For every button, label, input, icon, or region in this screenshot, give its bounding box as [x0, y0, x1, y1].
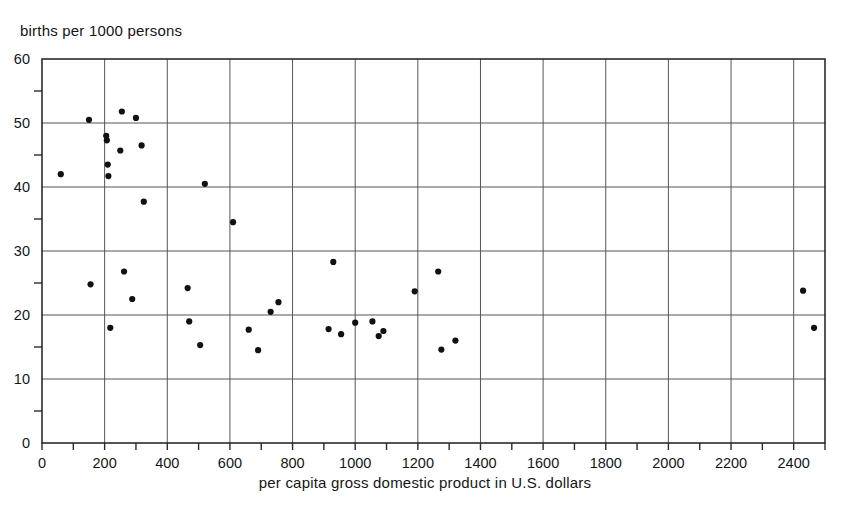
- data-point: [86, 117, 92, 123]
- tick-marks-group: [34, 91, 825, 450]
- data-point: [105, 173, 111, 179]
- data-point: [87, 281, 93, 287]
- x-tick-labels-group: 0200400600800100012001400160018002000220…: [38, 455, 810, 471]
- data-point: [197, 342, 203, 348]
- x-tick-label: 800: [280, 455, 304, 471]
- y-tick-label: 40: [14, 179, 30, 195]
- data-point: [117, 147, 123, 153]
- data-point: [230, 219, 236, 225]
- x-tick-label: 1600: [527, 455, 559, 471]
- x-tick-label: 2400: [778, 455, 810, 471]
- data-point: [121, 268, 127, 274]
- data-point: [246, 327, 252, 333]
- data-point: [452, 338, 458, 344]
- data-point: [202, 181, 208, 187]
- x-tick-label: 1800: [590, 455, 622, 471]
- data-point: [133, 115, 139, 121]
- data-point: [268, 309, 274, 315]
- gridlines-group: [42, 59, 825, 443]
- data-point: [376, 333, 382, 339]
- data-point: [800, 288, 806, 294]
- data-point: [129, 296, 135, 302]
- data-points-group: [58, 108, 817, 353]
- data-point: [58, 171, 64, 177]
- data-point: [380, 328, 386, 334]
- data-point: [141, 199, 147, 205]
- y-tick-label: 60: [14, 51, 30, 67]
- plot-canvas: 0200400600800100012001400160018002000220…: [0, 0, 850, 512]
- y-tick-label: 50: [14, 115, 30, 131]
- data-point: [104, 137, 110, 143]
- data-point: [119, 108, 125, 114]
- data-point: [255, 347, 261, 353]
- x-axis-label: per capita gross domestic product in U.S…: [0, 474, 850, 491]
- data-point: [811, 325, 817, 331]
- data-point: [138, 142, 144, 148]
- data-point: [412, 288, 418, 294]
- data-point: [438, 346, 444, 352]
- x-tick-label: 400: [155, 455, 179, 471]
- data-point: [185, 285, 191, 291]
- x-tick-label: 200: [93, 455, 117, 471]
- y-tick-label: 0: [22, 435, 30, 451]
- x-tick-label: 1200: [402, 455, 434, 471]
- data-point: [105, 162, 111, 168]
- data-point: [107, 325, 113, 331]
- x-tick-label: 2200: [715, 455, 747, 471]
- x-tick-label: 1000: [339, 455, 371, 471]
- data-point: [338, 331, 344, 337]
- data-point: [325, 326, 331, 332]
- data-point: [330, 259, 336, 265]
- x-tick-label: 600: [218, 455, 242, 471]
- data-point: [186, 318, 192, 324]
- y-tick-label: 30: [14, 243, 30, 259]
- data-point: [275, 299, 281, 305]
- data-point: [435, 268, 441, 274]
- x-tick-label: 1400: [464, 455, 496, 471]
- data-point: [352, 320, 358, 326]
- y-tick-label: 20: [14, 307, 30, 323]
- x-tick-label: 2000: [652, 455, 684, 471]
- y-tick-labels-group: 0102030405060: [14, 51, 30, 451]
- y-tick-label: 10: [14, 371, 30, 387]
- scatter-chart-figure: births per 1000 persons 0200400600800100…: [0, 0, 850, 512]
- data-point: [369, 318, 375, 324]
- x-tick-label: 0: [38, 455, 46, 471]
